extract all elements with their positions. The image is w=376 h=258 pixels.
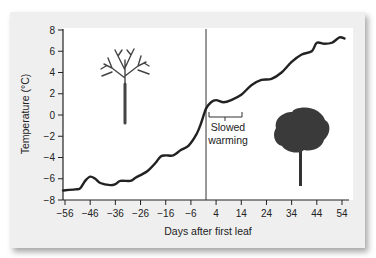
- x-tick-label: −56: [57, 208, 74, 219]
- y-tick-label: −6: [44, 173, 56, 184]
- x-tick-label: 44: [311, 208, 323, 219]
- y-tick-label: 4: [49, 67, 55, 78]
- annotation-line2: warming: [207, 134, 248, 146]
- y-tick-label: −8: [44, 195, 56, 206]
- x-tick-label: −6: [185, 208, 197, 219]
- y-tick-label: −4: [44, 152, 56, 163]
- x-tick-label: −36: [107, 208, 124, 219]
- x-tick-label: −46: [82, 208, 99, 219]
- y-tick-label: 8: [49, 25, 55, 36]
- y-tick-label: 0: [49, 110, 55, 121]
- y-tick-label: −2: [44, 131, 56, 142]
- x-tick-label: 14: [236, 208, 248, 219]
- y-tick-label: 6: [49, 46, 55, 57]
- x-tick-label: 24: [261, 208, 273, 219]
- temperature-chart: 86420−2−4−6−8−56−46−36−26−16−64142434445…: [0, 0, 376, 258]
- x-tick-label: 4: [213, 208, 219, 219]
- x-tick-label: −16: [157, 208, 174, 219]
- y-tick-label: 2: [49, 88, 55, 99]
- x-tick-label: −26: [132, 208, 149, 219]
- x-axis-title: Days after first leaf: [164, 225, 252, 237]
- x-tick-label: 54: [336, 208, 348, 219]
- x-tick-label: 34: [286, 208, 298, 219]
- annotation-line1: Slowed: [211, 121, 246, 133]
- y-axis-title: Temperature (°C): [19, 74, 31, 155]
